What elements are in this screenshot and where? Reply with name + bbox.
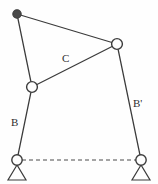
coupler-left-edge-line [17,14,32,87]
linkage-svg-canvas [0,0,158,184]
ground-pivot-right-joint [136,155,146,165]
support-right-triangle [132,165,150,180]
support-left-triangle [8,165,26,180]
coupler-top-edge-line [17,14,117,44]
label-coupler-c: C [62,53,69,64]
upper-right-pivot-joint [112,39,123,50]
label-link-b: B [11,117,18,128]
label-link-b-prime: B' [133,98,142,109]
link-b-line [17,87,32,160]
coupler-diagonal-line [32,44,117,87]
ground-pivot-left-joint [12,155,22,165]
upper-left-pivot-joint [27,82,38,93]
coupler-point-joint [13,10,21,18]
linkage-diagram: C B B' [0,0,158,184]
